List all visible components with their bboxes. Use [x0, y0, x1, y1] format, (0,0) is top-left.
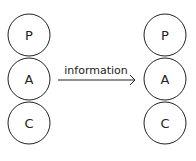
- right-node-c-label: C: [160, 116, 169, 131]
- left-node-a-label: A: [25, 72, 34, 87]
- left-node-p-label: P: [25, 28, 33, 43]
- pac-diagram: P A C P A C information: [0, 0, 196, 161]
- right-node-a-label: A: [161, 72, 170, 87]
- arrow-label: information: [64, 64, 128, 77]
- left-node-c-label: C: [24, 116, 33, 131]
- right-node-p-label: P: [161, 28, 169, 43]
